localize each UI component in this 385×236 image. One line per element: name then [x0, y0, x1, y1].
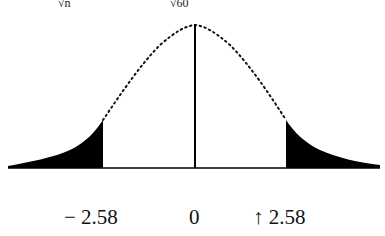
normal-curve-diagram	[0, 0, 385, 236]
left-tail-shaded-region	[8, 120, 103, 168]
right-tail-shaded-region	[286, 120, 380, 168]
right-critical-value-label: ↑ 2.58	[253, 205, 306, 230]
mean-label: 0	[189, 205, 200, 230]
left-critical-value-label: − 2.58	[64, 205, 118, 230]
